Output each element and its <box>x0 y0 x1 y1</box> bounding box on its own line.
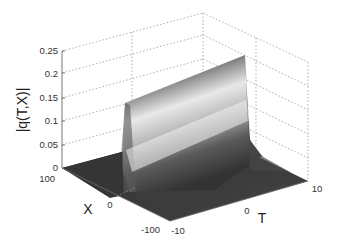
x-tick-label: 100 <box>39 173 55 184</box>
z-tick-label: 0.1 <box>45 115 58 126</box>
t-tick-label: -10 <box>171 225 185 236</box>
z-tick-label: 0.05 <box>40 139 59 150</box>
surface-plot: 0.25 0.2 0.15 0.1 0.05 0 100 0 -100 -10 … <box>0 0 341 248</box>
t-axis-label: T <box>258 210 267 226</box>
z-tick-label: 0.15 <box>40 92 59 103</box>
t-tick-label: 0 <box>244 205 249 216</box>
x-tick-label: 0 <box>107 199 112 210</box>
z-tick-label: 0.25 <box>40 45 59 56</box>
z-axis-label: |q(T,X)| <box>14 88 30 133</box>
z-tick-label: 0 <box>53 162 58 173</box>
x-axis-label: X <box>83 201 93 217</box>
z-tick-label: 0.2 <box>45 68 58 79</box>
x-tick-label: -100 <box>141 224 160 235</box>
t-tick-label: 10 <box>312 183 323 194</box>
